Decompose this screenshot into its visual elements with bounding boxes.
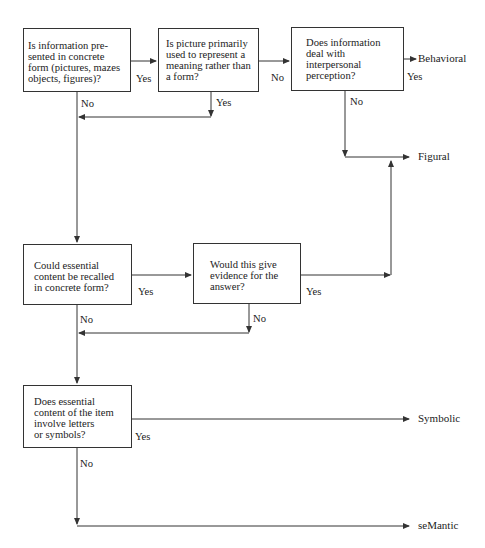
decision-text: Is information pre- sented in concrete f… (28, 40, 120, 84)
outcome-symbolic: Symbolic (418, 413, 460, 424)
decision-concrete-form: Is information pre- sented in concrete f… (23, 28, 131, 92)
edge-label-q6-no: No (80, 458, 93, 469)
edge-label-q2-no: No (271, 72, 284, 83)
decision-text: Does essential content of the item invol… (34, 396, 114, 440)
decision-interpersonal: Does information deal with interpersonal… (291, 27, 404, 91)
decision-text: Is picture primarily used to represent a… (166, 38, 251, 82)
edge-label-q6-yes: Yes (135, 431, 150, 442)
decision-text: Does information deal with interpersonal… (306, 37, 380, 81)
edge-label-q1-yes: Yes (136, 73, 151, 84)
decision-recalled-concrete: Could essential content be recalled in c… (23, 244, 132, 305)
outcome-figural: Figural (418, 151, 450, 162)
edge-label-q5-yes: Yes (306, 286, 321, 297)
edge-label-q4-yes: Yes (138, 286, 153, 297)
edge-label-q5-no: No (253, 313, 266, 324)
outcome-semantic: seMantic (418, 520, 458, 531)
decision-evidence: Would this give evidence for the answer? (193, 243, 301, 304)
edge-label-q3-no: No (350, 96, 363, 107)
edge-label-q4-no: No (80, 314, 93, 325)
edge-label-q1-no: No (81, 98, 94, 109)
decision-picture-meaning: Is picture primarily used to represent a… (158, 28, 259, 92)
decision-letters-symbols: Does essential content of the item invol… (23, 385, 132, 448)
decision-text: Would this give evidence for the answer? (210, 259, 278, 292)
decision-text: Could essential content be recalled in c… (34, 260, 114, 293)
edge-label-q2-yes: Yes (216, 97, 231, 108)
outcome-behavioral: Behavioral (418, 53, 466, 64)
edge-label-q3-yes: Yes (407, 71, 422, 82)
